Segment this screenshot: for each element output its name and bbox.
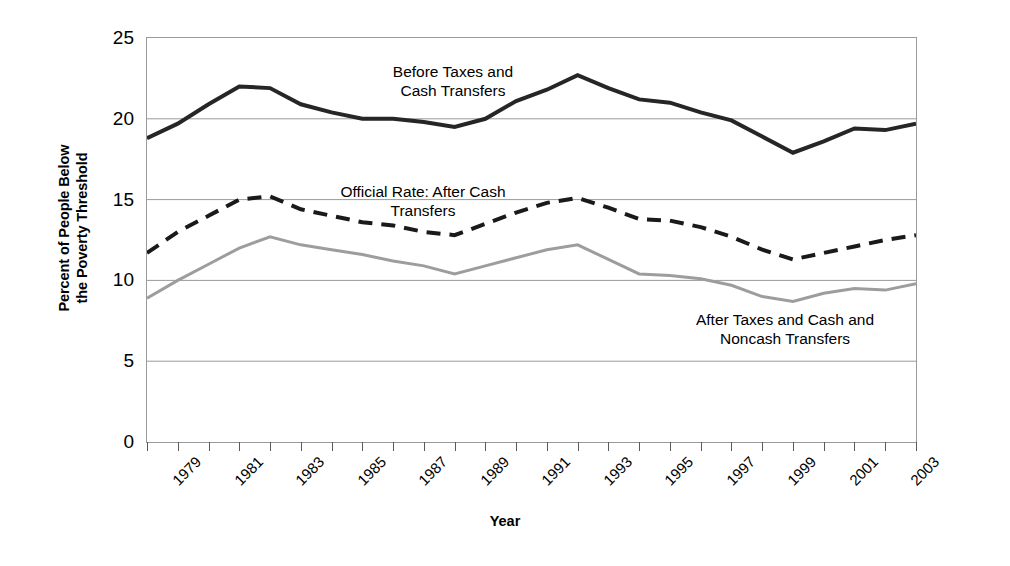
x-tick-mark bbox=[762, 442, 763, 451]
x-tick-mark bbox=[209, 442, 210, 451]
x-tick-mark bbox=[578, 442, 579, 451]
x-tick-mark bbox=[701, 442, 702, 451]
x-tick-mark bbox=[639, 442, 640, 451]
x-tick-mark bbox=[793, 442, 794, 451]
x-tick-label: 1979 bbox=[169, 453, 205, 489]
x-tick-label: 1987 bbox=[415, 453, 451, 489]
x-tick-label: 1997 bbox=[722, 453, 758, 489]
x-tick-mark bbox=[608, 442, 609, 451]
x-tick-label: 1985 bbox=[353, 453, 389, 489]
x-tick-label: 2003 bbox=[907, 453, 943, 489]
x-tick-label: 1981 bbox=[230, 453, 266, 489]
y-tick-label: 10 bbox=[14, 270, 134, 289]
x-tick-label: 1989 bbox=[476, 453, 512, 489]
annotation-after-taxes-line-1: After Taxes and Cash and bbox=[640, 310, 930, 329]
x-tick-mark bbox=[731, 442, 732, 451]
chart-canvas: Percent of People Below the Poverty Thre… bbox=[0, 0, 1010, 566]
x-tick-mark bbox=[393, 442, 394, 451]
x-tick-label: 1999 bbox=[784, 453, 820, 489]
x-tick-mark bbox=[424, 442, 425, 451]
x-tick-mark bbox=[854, 442, 855, 451]
x-tick-mark bbox=[178, 442, 179, 451]
y-axis-tick-labels: 0510152025 bbox=[0, 0, 146, 566]
x-axis-title: Year bbox=[0, 513, 1010, 529]
y-tick-label: 25 bbox=[14, 28, 134, 47]
annotation-after-taxes: After Taxes and Cash and Noncash Transfe… bbox=[640, 310, 930, 348]
x-tick-mark bbox=[485, 442, 486, 451]
x-tick-label: 1983 bbox=[292, 453, 328, 489]
x-tick-label: 2001 bbox=[845, 453, 881, 489]
x-tick-mark bbox=[885, 442, 886, 451]
x-tick-label: 1993 bbox=[599, 453, 635, 489]
x-tick-mark bbox=[147, 442, 148, 451]
annotation-official-rate-line-1: Official Rate: After Cash bbox=[278, 182, 568, 201]
x-tick-mark bbox=[516, 442, 517, 451]
x-tick-mark bbox=[239, 442, 240, 451]
x-tick-label: 1991 bbox=[538, 453, 574, 489]
x-tick-mark bbox=[455, 442, 456, 451]
x-tick-mark bbox=[362, 442, 363, 451]
x-tick-mark bbox=[824, 442, 825, 451]
annotation-before-taxes-line-1: Before Taxes and bbox=[338, 62, 568, 81]
annotation-after-taxes-line-2: Noncash Transfers bbox=[640, 329, 930, 348]
y-tick-label: 15 bbox=[14, 190, 134, 209]
series-line-2 bbox=[147, 237, 916, 302]
annotation-official-rate: Official Rate: After Cash Transfers bbox=[278, 182, 568, 220]
annotation-before-taxes-line-2: Cash Transfers bbox=[338, 81, 568, 100]
x-tick-mark bbox=[916, 442, 917, 451]
x-tick-mark bbox=[332, 442, 333, 451]
x-tick-label: 1995 bbox=[661, 453, 697, 489]
y-tick-label: 20 bbox=[14, 109, 134, 128]
x-tick-mark bbox=[547, 442, 548, 451]
x-tick-mark bbox=[301, 442, 302, 451]
x-tick-mark bbox=[670, 442, 671, 451]
y-tick-label: 5 bbox=[14, 351, 134, 370]
x-tick-mark bbox=[270, 442, 271, 451]
annotation-before-taxes: Before Taxes and Cash Transfers bbox=[338, 62, 568, 100]
annotation-official-rate-line-2: Transfers bbox=[278, 201, 568, 220]
y-tick-label: 0 bbox=[14, 432, 134, 451]
